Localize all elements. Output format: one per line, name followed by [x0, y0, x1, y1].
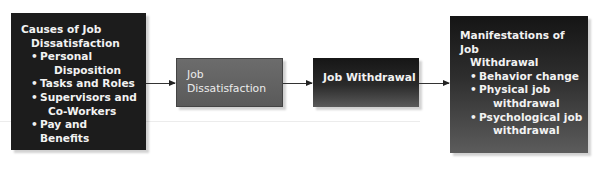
- manifestation-item: Physical jobwithdrawal: [470, 83, 584, 110]
- manifestations-list: Behavior change Physical jobwithdrawal P…: [460, 70, 584, 138]
- manifestation-item: Psychological jobwithdrawal: [470, 111, 584, 138]
- causes-list: PersonalDisposition Tasks and Roles Supe…: [21, 50, 140, 145]
- cause-item: Pay and Benefits: [31, 118, 140, 145]
- arrow-withdrawal-to-manifestations: [419, 83, 449, 84]
- causes-title: Causes of Job Dissatisfaction: [21, 23, 140, 50]
- job-dissatisfaction-box: Job Dissatisfaction: [176, 58, 283, 107]
- manifestations-title: Manifestations of Job Withdrawal: [460, 29, 584, 70]
- cause-item: Tasks and Roles: [31, 77, 140, 91]
- cause-item: PersonalDisposition: [31, 50, 140, 77]
- arrow-causes-to-dissatisfaction: [146, 83, 175, 84]
- causes-of-job-dissatisfaction-box: Causes of Job Dissatisfaction PersonalDi…: [11, 13, 146, 150]
- manifestations-of-job-withdrawal-box: Manifestations of Job Withdrawal Behavio…: [450, 16, 588, 153]
- arrow-dissatisfaction-to-withdrawal: [283, 83, 312, 84]
- cause-item: Supervisors andCo-Workers: [31, 91, 140, 118]
- job-withdrawal-box: Job Withdrawal: [313, 58, 419, 107]
- manifestation-item: Behavior change: [470, 70, 584, 84]
